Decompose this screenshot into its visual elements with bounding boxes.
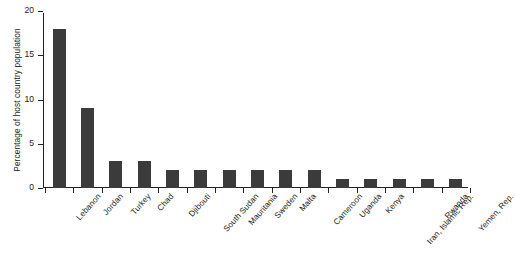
bar (223, 170, 236, 188)
y-tick-label-15: 15 (24, 49, 34, 59)
category-label: Kenya (384, 192, 406, 215)
bar (449, 179, 462, 188)
category-label: Jordan (101, 192, 125, 217)
bars (43, 10, 468, 188)
bar (194, 170, 207, 188)
bar (138, 161, 151, 188)
y-tick-label-0: 0 (29, 182, 34, 192)
bar (364, 179, 377, 188)
bar (109, 161, 122, 188)
bar (279, 170, 292, 188)
bar (336, 179, 349, 188)
y-tick-0: 0 (38, 188, 43, 189)
y-tick-label-20: 20 (24, 5, 34, 15)
bar (81, 108, 94, 188)
category-label: Yemen, Rep. (477, 192, 515, 233)
bar (393, 179, 406, 188)
bar (166, 170, 179, 188)
y-tick-label-5: 5 (29, 138, 34, 148)
category-label: Chad (156, 192, 176, 213)
bar (308, 170, 321, 188)
y-axis-title: Percentage of host country population (12, 5, 22, 195)
bar (251, 170, 264, 188)
bar (53, 29, 66, 188)
x-tick (470, 188, 471, 193)
category-label: Turkey (129, 192, 152, 217)
category-label: Lebanon (75, 192, 103, 222)
y-tick-label-10: 10 (24, 94, 34, 104)
category-labels: LebanonJordanTurkeyChadDjiboutiSouth Sud… (43, 192, 468, 256)
bar (421, 179, 434, 188)
category-label: Djibouti (187, 192, 212, 219)
category-label: Malta (298, 192, 318, 213)
plot-area: 05101520 (43, 10, 468, 188)
